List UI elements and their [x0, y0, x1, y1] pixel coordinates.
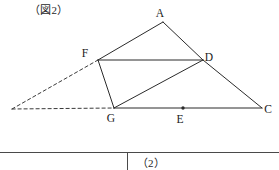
- segment-DC: [203, 60, 262, 108]
- vertex-label-F: F: [82, 47, 88, 59]
- vertex-label-A: A: [156, 7, 165, 19]
- dashed-construction-lines: [12, 60, 114, 109]
- segment-AD: [163, 22, 203, 60]
- solid-polygon-lines: [98, 22, 262, 108]
- vertex-label-D: D: [205, 51, 213, 63]
- figure-container: （図2） AFDGEC （2）: [0, 0, 279, 170]
- geometry-diagram: AFDGEC: [0, 0, 279, 170]
- vertex-label-E: E: [176, 113, 183, 125]
- vertex-label-C: C: [264, 103, 272, 115]
- segment-GD: [114, 60, 203, 108]
- segment-PG: [12, 108, 114, 109]
- vertex-labels: AFDGEC: [82, 7, 272, 125]
- segment-FA: [98, 22, 163, 60]
- midpoint-dot-E: [181, 106, 184, 109]
- segment-FG: [98, 60, 114, 108]
- table-cell-2-label: （2）: [137, 157, 165, 170]
- point-markers: [181, 106, 184, 109]
- segment-PF: [12, 60, 98, 109]
- vertex-label-G: G: [107, 112, 115, 124]
